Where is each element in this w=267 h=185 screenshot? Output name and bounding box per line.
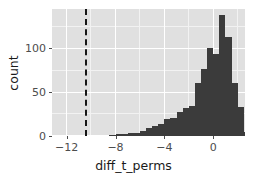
x-tick-label: −8	[107, 141, 123, 154]
histogram-figure: count diff_t_perms −12−8−40050100	[0, 0, 267, 185]
y-tick-label: 100	[18, 42, 46, 55]
y-tick-mark	[49, 48, 52, 49]
gridline-vertical	[90, 9, 91, 136]
gridline-vertical	[139, 9, 140, 136]
x-tick-mark	[213, 136, 214, 139]
y-tick-label: 50	[18, 86, 46, 99]
x-tick-mark	[164, 136, 165, 139]
x-tick-label: −4	[156, 141, 172, 154]
gridline-horizontal	[52, 48, 245, 49]
gridline-horizontal	[52, 26, 245, 27]
plot-panel	[52, 9, 245, 136]
x-tick-label: −12	[55, 141, 78, 154]
histogram-bar	[244, 132, 245, 136]
gridline-vertical	[115, 9, 116, 136]
y-tick-label: 0	[18, 130, 46, 143]
gridline-vertical	[164, 9, 165, 136]
x-tick-label: 0	[210, 141, 217, 154]
x-tick-mark	[116, 136, 117, 139]
x-tick-mark	[67, 136, 68, 139]
y-tick-mark	[49, 92, 52, 93]
x-axis-title: diff_t_perms	[0, 158, 267, 173]
y-axis-title: count	[6, 9, 21, 136]
reference-vline	[85, 9, 87, 136]
y-tick-mark	[49, 136, 52, 137]
gridline-vertical	[66, 9, 67, 136]
